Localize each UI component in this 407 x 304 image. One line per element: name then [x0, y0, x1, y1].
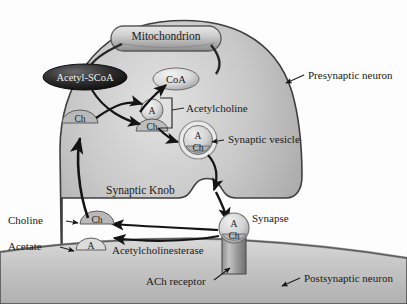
acetyl-scoa-label: Acetyl-SCoA — [56, 72, 114, 83]
cleft-Ch-label: Ch — [228, 231, 239, 241]
acetylcholinesterase-label: Acetylcholinesterase — [112, 244, 204, 256]
synapse-label: Synapse — [252, 212, 289, 224]
synaptic-vesicle-label: Synaptic vesicle — [228, 133, 300, 145]
diagram-canvas: Mitochondrion Acetyl-SCoA CoA Ch A Ch A … — [0, 0, 407, 304]
cleft-A-label: A — [231, 219, 238, 229]
acetate-label-text: Acetate — [8, 240, 42, 252]
coa-label: CoA — [166, 74, 186, 85]
synaptic-knob-label: Synaptic Knob — [106, 184, 175, 197]
choline-recycled-label: Ch — [91, 215, 102, 225]
arrow-ach-to-ache-upper — [112, 224, 218, 230]
mitochondrion-label: Mitochondrion — [132, 30, 201, 42]
presynaptic-leader — [286, 75, 304, 83]
choline-inner-label: Ch — [74, 114, 85, 124]
choline-leader — [66, 221, 78, 223]
postsynaptic-neuron-label: Postsynaptic neuron — [304, 272, 393, 284]
vesicle-A-label: A — [195, 131, 202, 141]
choline-label: Choline — [8, 214, 43, 226]
acetylcholine-label: Acetylcholine — [186, 102, 248, 114]
acetylcholine-Ch-label: Ch — [146, 122, 157, 132]
presynaptic-neuron-label: Presynaptic neuron — [308, 69, 393, 81]
acetate-label: A — [88, 241, 95, 251]
vesicle-Ch-label: Ch — [192, 143, 203, 153]
ach-receptor-label: ACh receptor — [146, 275, 206, 287]
acetylcholine-A-label: A — [149, 106, 156, 116]
